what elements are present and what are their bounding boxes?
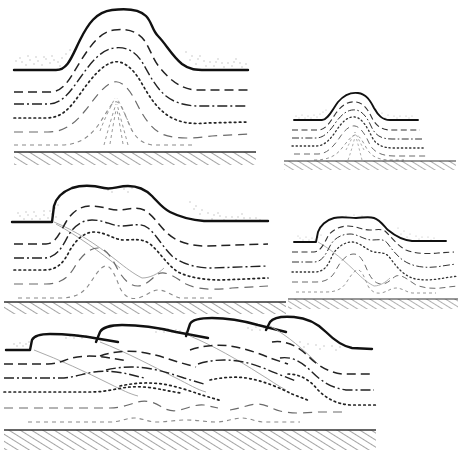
basement (14, 152, 256, 165)
horizon-4 (14, 248, 268, 289)
horizon-3 (292, 242, 458, 280)
horizon-2 (14, 48, 248, 106)
panel-a-canvas (0, 0, 280, 170)
horizon-4-sheet-4 (230, 404, 348, 413)
panel-large-thrusted-fold (0, 178, 290, 314)
panel-b-canvas (284, 88, 459, 170)
horizon-2 (292, 110, 422, 139)
panel-small-detachment-fold (284, 88, 459, 170)
geologic-cross-section-figure (0, 0, 459, 461)
panel-d-canvas (286, 200, 459, 310)
topographic-surface (294, 93, 418, 120)
panel-e-canvas (0, 312, 380, 461)
surface-stipple (15, 49, 246, 67)
horizon-3-sheet-3 (210, 377, 310, 401)
panel-imbricate-thrust-stack (0, 312, 380, 461)
horizon-4-sheet-1 (4, 401, 218, 411)
basement (284, 146, 456, 170)
basement (4, 430, 376, 450)
topographic-surface (14, 9, 248, 70)
panel-small-thrusted-fold (286, 200, 459, 310)
fault-1 (34, 350, 138, 396)
horizon-3-sheet-2 (120, 383, 222, 401)
surface-stipple (13, 326, 340, 350)
basement (288, 299, 458, 309)
panel-large-detachment-fold (0, 0, 280, 170)
horizon-2-sheet-2 (106, 367, 204, 384)
fault-3 (190, 336, 286, 390)
horizon-5 (14, 102, 196, 145)
horizon-3 (292, 117, 424, 148)
crestal-cusp-bundle (100, 98, 132, 145)
topographic-surface (12, 186, 268, 222)
panel-c-canvas (0, 178, 290, 314)
horizon-1 (14, 29, 248, 92)
horizon-1-sheet-2 (100, 351, 196, 367)
horizon-2 (14, 220, 268, 268)
horizon-5 (18, 266, 214, 299)
horizon-2-sheet-1 (4, 371, 144, 378)
horizon-5-sheet-1 (28, 418, 300, 422)
crestal-cusp-bundle (346, 132, 364, 160)
horizon-3-sheet-1 (4, 387, 180, 393)
topographic-surface-sheet-2 (96, 325, 208, 342)
